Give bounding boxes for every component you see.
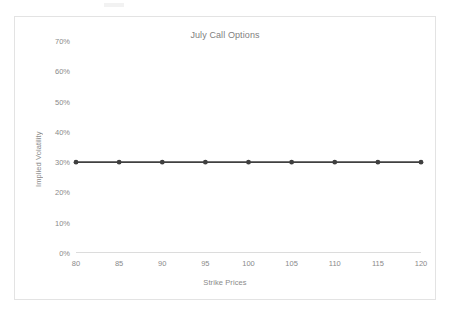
x-tick-label: 120: [415, 259, 428, 268]
x-tick-label: 90: [158, 259, 166, 268]
y-tick-label: 10%: [55, 218, 70, 227]
y-tick-label: 70%: [55, 37, 70, 46]
x-axis-title: Strike Prices: [15, 278, 435, 287]
data-point-marker: [74, 160, 79, 165]
data-point-marker: [203, 160, 208, 165]
x-tick-label: 95: [201, 259, 209, 268]
x-tick-label: 80: [72, 259, 80, 268]
x-tick-label: 100: [242, 259, 255, 268]
scan-artifact: [104, 3, 124, 7]
x-tick-label: 110: [329, 259, 341, 268]
data-point-marker: [160, 160, 165, 165]
y-tick-label: 20%: [55, 188, 70, 197]
y-axis-title: Implied Volatility: [31, 93, 45, 225]
data-point-marker: [419, 160, 424, 165]
data-point-marker: [332, 160, 337, 165]
plot-area: 0%10%20%30%40%50%60%70% 8085909510010511…: [76, 41, 421, 253]
data-point-marker: [246, 160, 251, 165]
y-tick-label: 30%: [55, 158, 70, 167]
data-point-marker: [117, 160, 122, 165]
chart-container: July Call Options Implied Volatility Str…: [14, 16, 436, 300]
y-tick-label: 50%: [55, 97, 70, 106]
x-tick-label: 105: [285, 259, 298, 268]
data-point-marker: [289, 160, 294, 165]
y-tick-label: 40%: [55, 127, 70, 136]
chart-title: July Call Options: [15, 30, 435, 40]
y-tick-label: 60%: [55, 67, 70, 76]
y-tick-label: 0%: [59, 249, 70, 258]
series-plot: [76, 41, 421, 253]
x-tick-label: 85: [115, 259, 123, 268]
data-point-marker: [375, 160, 380, 165]
x-tick-label: 115: [372, 259, 384, 268]
